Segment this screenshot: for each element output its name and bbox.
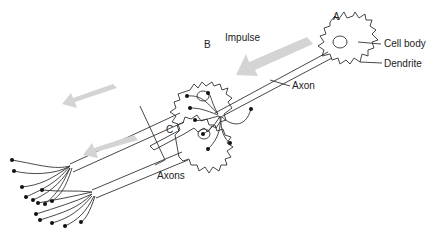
neuron-a-cell-body	[318, 12, 378, 64]
label-axons: Axons	[157, 171, 185, 181]
neuron-a-nucleus	[333, 36, 347, 48]
neuron-diagram	[0, 0, 439, 234]
label-axon: Axon	[292, 81, 315, 91]
label-neuron-a: A	[333, 12, 340, 22]
label-neuron-b: B	[204, 40, 211, 50]
label-cell-body: Cell body	[384, 39, 426, 49]
neuron-c-cell-body	[175, 115, 233, 173]
label-impulse: Impulse	[225, 33, 260, 43]
axon-b-terminals	[12, 160, 72, 204]
label-neuron-c: C	[166, 125, 173, 135]
impulse-arrow-b	[62, 84, 117, 108]
label-dendrite: Dendrite	[384, 59, 422, 69]
axon-main-lower	[219, 58, 332, 118]
axon-c-terminals	[36, 190, 95, 226]
